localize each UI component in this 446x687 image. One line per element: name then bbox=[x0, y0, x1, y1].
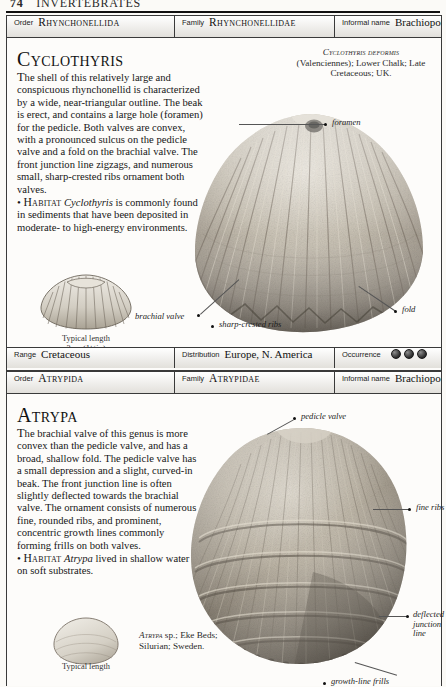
callout-dot-sharp-crested-ribs bbox=[211, 325, 214, 328]
taxonomy-cell-family-atrypa: Family Atrypidae bbox=[175, 372, 335, 393]
folio-number: 74 bbox=[10, 0, 23, 10]
header-rule bbox=[6, 11, 440, 13]
footer-bar-cyclothyris: Range Cretaceous Distribution Europe, N.… bbox=[6, 347, 442, 371]
occurrence-dot bbox=[404, 349, 414, 359]
family-value-atrypa: Atrypidae bbox=[209, 372, 260, 384]
genus-heading-cyclothyris: Cyclothyris bbox=[17, 49, 123, 69]
size-figure-cyclothyris bbox=[37, 272, 135, 336]
leader-line-foramen bbox=[239, 124, 325, 125]
entry-atrypa: Order Atrypida Family Atrypidae Informal… bbox=[6, 371, 442, 686]
family-key-atrypa: Family bbox=[182, 374, 204, 383]
running-head: 74 INVERTEBRATES bbox=[10, 0, 310, 10]
specimen-species-name: Cyclothyris deformis bbox=[323, 47, 399, 57]
specimen-caption-cyclothyris: Cyclothyris deformis (Valenciennes); Low… bbox=[295, 47, 427, 79]
callout-fold: fold bbox=[402, 305, 415, 315]
specimen-species-name-atrypa: Atrypa bbox=[139, 630, 163, 640]
typical-length-atrypa: Typical length bbox=[31, 662, 141, 672]
informal-name-key: Informal name bbox=[342, 18, 390, 27]
typical-length-label-1: Typical length bbox=[31, 334, 141, 344]
occurrence-dot bbox=[391, 349, 401, 359]
taxonomy-cell-order: Order Rhynchonellida bbox=[7, 16, 175, 37]
occurrence-key: Occurrence bbox=[342, 350, 381, 359]
leader-line-fine-ribs bbox=[373, 509, 409, 510]
callout-foramen: foramen bbox=[332, 118, 361, 128]
taxonomy-cell-family: Family Rhynchonellidae bbox=[175, 16, 335, 37]
description-atrypa: The brachial valve of this genus is more… bbox=[17, 427, 197, 578]
callout-dot-fold bbox=[394, 310, 397, 313]
fossil-photo-cyclothyris bbox=[185, 106, 435, 341]
taxonomy-bar-atrypa: Order Atrypida Family Atrypidae Informal… bbox=[7, 372, 441, 394]
callout-dot-foramen bbox=[324, 123, 327, 126]
footer-cell-distribution: Distribution Europe, N. America bbox=[175, 348, 335, 368]
family-key: Family bbox=[182, 18, 204, 27]
typical-length-label-2: Typical length bbox=[31, 662, 141, 672]
genus-heading-atrypa: Atrypa bbox=[17, 405, 78, 425]
taxonomy-cell-informal-name: Informal name Brachiopod bbox=[335, 16, 441, 37]
range-key: Range bbox=[14, 350, 36, 359]
informal-name-key-atrypa: Informal name bbox=[342, 374, 390, 383]
callout-fine-ribs: fine ribs bbox=[416, 503, 446, 513]
order-key: Order bbox=[14, 18, 33, 27]
callout-growth-line-frills: growth-line frills bbox=[331, 677, 389, 687]
description-cyclothyris: The shell of this relatively large and c… bbox=[17, 71, 203, 234]
callout-brachial-valve: brachial valve bbox=[135, 312, 184, 322]
taxonomy-cell-order-atrypa: Order Atrypida bbox=[7, 372, 175, 393]
callout-deflected-junction-line: deflected junction line bbox=[413, 610, 446, 639]
callout-dot-deflected-junction-line bbox=[406, 615, 409, 618]
callout-dot-fine-ribs bbox=[408, 508, 411, 511]
entry-cyclothyris: Order Rhynchonellida Family Rhynchonelli… bbox=[6, 15, 442, 357]
entry-body-atrypa: Atrypa The brachial valve of this genus … bbox=[7, 394, 441, 687]
leader-line-deflected-junction-line bbox=[379, 616, 407, 617]
order-key-atrypa: Order bbox=[14, 374, 33, 383]
callout-dot-growth-line-frills bbox=[323, 682, 326, 685]
footer-cell-range: Range Cretaceous bbox=[7, 348, 175, 368]
distribution-key: Distribution bbox=[182, 350, 220, 359]
order-value: Rhynchonellida bbox=[38, 16, 119, 28]
informal-name-value: Brachiopod bbox=[395, 16, 441, 28]
taxonomy-bar-cyclothyris: Order Rhynchonellida Family Rhynchonelli… bbox=[7, 16, 441, 38]
footer-cell-occurrence: Occurrence bbox=[335, 348, 441, 368]
taxonomy-cell-informal-name-atrypa: Informal name Brachiopod bbox=[335, 372, 441, 393]
distribution-value: Europe, N. America bbox=[225, 348, 313, 360]
specimen-details: (Valenciennes); Lower Chalk; Late Cretac… bbox=[297, 58, 426, 79]
callout-sharp-crested-ribs: sharp-crested ribs bbox=[219, 320, 281, 330]
entry-body-cyclothyris: Cyclothyris The shell of this relatively… bbox=[7, 38, 441, 357]
order-value-atrypa: Atrypida bbox=[38, 372, 83, 384]
running-head-title: INVERTEBRATES bbox=[36, 0, 141, 10]
family-value: Rhynchonellidae bbox=[209, 16, 296, 28]
occurrence-dot bbox=[417, 349, 427, 359]
callout-pedicle-valve: pedicle valve bbox=[301, 412, 346, 422]
range-value: Cretaceous bbox=[41, 348, 90, 360]
specimen-caption-atrypa: Atrypa sp.; Eke Beds; Silurian; Sweden. bbox=[139, 630, 225, 651]
informal-name-value-atrypa: Brachiopod bbox=[395, 372, 441, 384]
occurrence-rating bbox=[391, 349, 427, 359]
